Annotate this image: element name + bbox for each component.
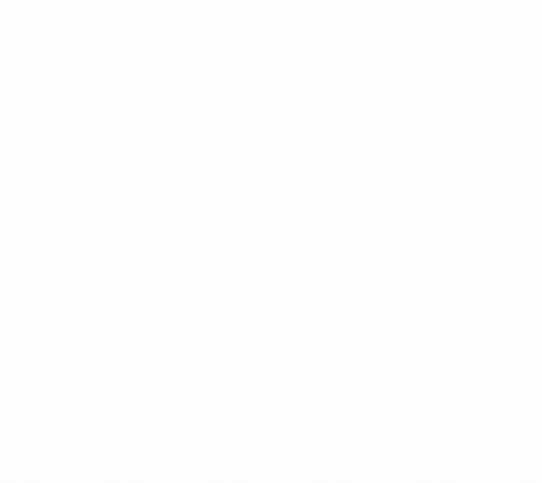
scatter-plot-figure	[0, 0, 542, 483]
plot-canvas	[0, 0, 542, 483]
